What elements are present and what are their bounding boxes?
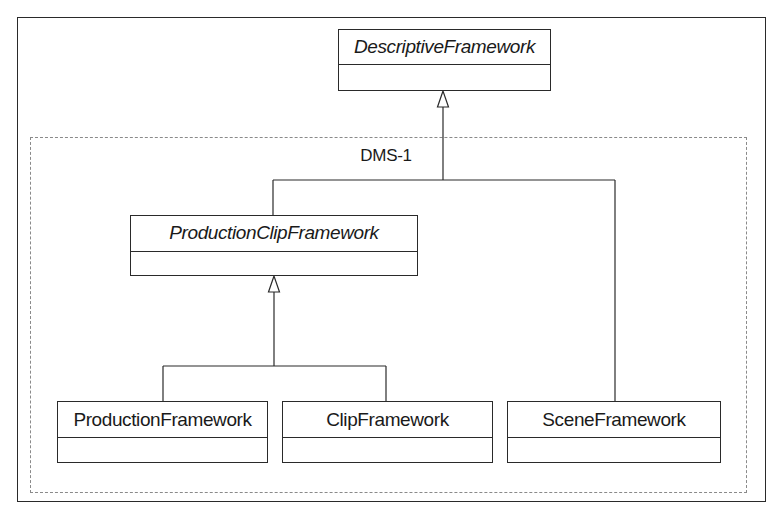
class-scene-framework[interactable]: SceneFramework (507, 401, 721, 463)
class-divider (58, 437, 267, 438)
class-divider (283, 437, 492, 438)
class-production-clip-framework[interactable]: ProductionClipFramework (130, 215, 418, 276)
class-production-framework[interactable]: ProductionFramework (57, 401, 268, 463)
class-clip-framework[interactable]: ClipFramework (282, 401, 493, 463)
class-divider (508, 437, 720, 438)
class-name: ClipFramework (283, 409, 492, 431)
class-name: DescriptiveFramework (339, 36, 550, 58)
class-divider (339, 64, 550, 65)
class-name: ProductionClipFramework (131, 222, 417, 244)
package-label: DMS-1 (355, 146, 417, 166)
class-name: ProductionFramework (58, 409, 267, 431)
class-descriptive-framework[interactable]: DescriptiveFramework (338, 29, 551, 91)
class-name: SceneFramework (508, 409, 720, 431)
class-divider (131, 251, 417, 252)
